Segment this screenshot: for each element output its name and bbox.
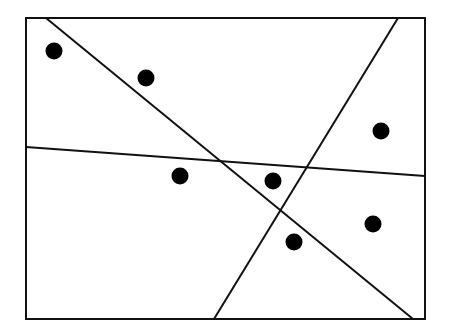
point-7 [286,234,303,251]
point-1 [46,43,63,60]
point-5 [265,173,282,190]
diagram-canvas [0,0,452,334]
point-3 [373,123,390,140]
background [0,0,452,334]
point-2 [138,70,155,87]
point-4 [172,168,189,185]
point-6 [365,216,382,233]
